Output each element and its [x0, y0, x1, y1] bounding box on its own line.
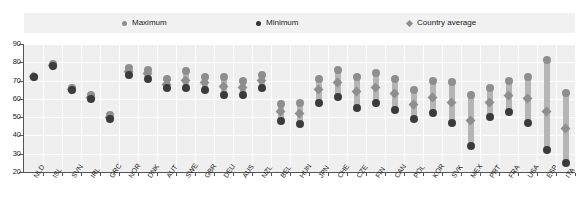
point-minimum [239, 91, 247, 99]
circle-dark-icon [256, 21, 261, 26]
grid-line-vertical [309, 44, 310, 172]
legend-item-minimum: Minimum [256, 13, 298, 33]
point-maximum [201, 73, 209, 81]
y-axis-tick [19, 62, 23, 63]
y-axis-tick [19, 117, 23, 118]
point-maximum [277, 100, 285, 108]
point-minimum [505, 108, 513, 116]
grid-line-vertical [157, 44, 158, 172]
grid-line-vertical [499, 44, 500, 172]
y-axis-tick [19, 154, 23, 155]
grid-line-vertical [385, 44, 386, 172]
grid-line-vertical [81, 44, 82, 172]
point-maximum [486, 84, 494, 92]
grid-line-vertical [290, 44, 291, 172]
grid-line-vertical [62, 44, 63, 172]
point-maximum [543, 56, 551, 64]
point-minimum [296, 120, 304, 128]
grid-line-vertical [328, 44, 329, 172]
point-minimum [144, 75, 152, 83]
grid-line-vertical [461, 44, 462, 172]
point-maximum [429, 77, 437, 85]
point-maximum [353, 73, 361, 81]
point-minimum [201, 86, 209, 94]
point-minimum [49, 62, 57, 70]
legend-label-minimum: Minimum [266, 13, 298, 33]
point-maximum [505, 77, 513, 85]
point-maximum [524, 73, 532, 81]
grid-line-vertical [233, 44, 234, 172]
chart-legend: Maximum Minimum Country average [24, 13, 575, 33]
point-minimum [448, 119, 456, 127]
point-minimum [182, 84, 190, 92]
point-minimum [391, 106, 399, 114]
circle-gray-icon [122, 21, 127, 26]
point-maximum [391, 75, 399, 83]
point-minimum [220, 91, 228, 99]
grid-line-vertical [43, 44, 44, 172]
point-maximum [372, 69, 380, 77]
point-maximum [334, 66, 342, 74]
point-maximum [315, 75, 323, 83]
point-maximum [258, 71, 266, 79]
grid-line-vertical [366, 44, 367, 172]
y-axis-tick [19, 172, 23, 173]
point-minimum [334, 93, 342, 101]
point-minimum [562, 159, 570, 167]
x-axis-category-labels: NLDISLSVNIRLGRCNORDNKAUTSWEGBRDEUAUSNZLB… [0, 175, 581, 201]
grid-line-horizontal [24, 81, 575, 82]
grid-line-vertical [119, 44, 120, 172]
point-minimum [353, 104, 361, 112]
point-minimum [543, 146, 551, 154]
y-axis-tick [19, 81, 23, 82]
grid-line-vertical [480, 44, 481, 172]
point-minimum [410, 115, 418, 123]
grid-line-vertical [252, 44, 253, 172]
y-axis-tick [19, 99, 23, 100]
grid-line-vertical [537, 44, 538, 172]
point-minimum [106, 115, 114, 123]
grid-line-vertical [518, 44, 519, 172]
chart-root: Maximum Minimum Country average 20304050… [0, 0, 581, 201]
plot-area [24, 44, 575, 172]
grid-line-vertical [138, 44, 139, 172]
point-maximum [296, 99, 304, 107]
legend-label-maximum: Maximum [132, 13, 167, 33]
y-axis-tick [19, 135, 23, 136]
grid-line-vertical [347, 44, 348, 172]
grid-line-vertical [556, 44, 557, 172]
grid-line-horizontal [24, 62, 575, 63]
point-maximum [562, 89, 570, 97]
point-maximum [220, 73, 228, 81]
grid-line-vertical [404, 44, 405, 172]
grid-line-vertical [214, 44, 215, 172]
y-axis-labels: 2030405060708090 [0, 0, 21, 201]
point-minimum [372, 99, 380, 107]
point-maximum [239, 77, 247, 85]
legend-label-country-average: Country average [417, 13, 476, 33]
point-minimum [315, 99, 323, 107]
legend-item-country-average: Country average [407, 13, 476, 33]
point-minimum [277, 117, 285, 125]
point-maximum [410, 86, 418, 94]
diamond-gray-icon [406, 19, 413, 26]
point-minimum [467, 142, 475, 150]
grid-line-horizontal [24, 135, 575, 136]
point-minimum [30, 73, 38, 81]
point-maximum [163, 75, 171, 83]
grid-line-vertical [100, 44, 101, 172]
y-axis-line [23, 44, 24, 173]
legend-item-maximum: Maximum [122, 13, 167, 33]
point-minimum [163, 84, 171, 92]
grid-line-vertical [195, 44, 196, 172]
grid-line-horizontal [24, 44, 575, 45]
point-minimum [486, 113, 494, 121]
y-axis-tick [19, 44, 23, 45]
point-minimum [87, 95, 95, 103]
grid-line-vertical [423, 44, 424, 172]
grid-line-vertical [442, 44, 443, 172]
grid-line-vertical [271, 44, 272, 172]
point-maximum [182, 67, 190, 75]
point-maximum [467, 91, 475, 99]
point-minimum [524, 119, 532, 127]
